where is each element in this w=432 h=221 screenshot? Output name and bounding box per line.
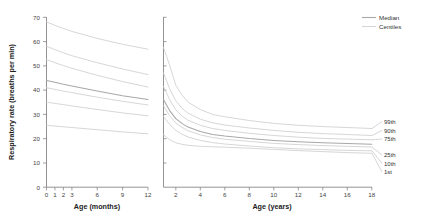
curve-25th [47,88,149,105]
y-tick-label: 40 [33,86,40,93]
legend-item-median: Median [362,14,400,21]
curve-25th [164,106,372,147]
child-x-axis-title: Age (years) [252,202,292,211]
x-tick: 8 [248,187,252,197]
x-tick: 2 [62,187,66,197]
x-tick-label: 6 [223,191,227,198]
x-tick: 14 [319,187,326,197]
y-tick-20: 20 [33,135,46,142]
child-x-axis: 2 4 6 8 10 [164,187,376,211]
y-axis-title: Respiratory rate (breaths per min) [7,43,16,159]
x-tick-label: 4 [199,191,203,198]
curve-90th [164,73,372,136]
child-panel: 2 4 6 8 10 [164,17,376,211]
x-tick-label: 18 [368,191,375,198]
curve-75th [47,60,149,88]
x-tick-label: 1 [53,191,57,198]
x-tick-label: 14 [319,191,326,198]
annotation-25th: 25th [372,147,396,158]
x-tick-label: 8 [248,191,252,198]
respiratory-rate-centile-chart: 70 60 50 40 30 20 [0,0,432,221]
y-tick-label: 10 [33,159,40,166]
curve-99th [47,22,149,49]
y-tick-60: 60 [33,38,46,45]
infant-panel: 0 1 2 3 6 [45,22,152,211]
x-tick: 0 [45,187,49,197]
centile-annotations: 99th 90th 75th 25th 10th 1st [372,119,396,176]
annotation-75th: 75th [372,136,396,142]
chart-canvas: 70 60 50 40 30 20 [0,0,432,221]
x-tick-label: 3 [70,191,74,198]
y-tick-50: 50 [33,62,46,69]
y-tick-label: 0 [37,184,41,191]
x-tick-label: 2 [62,191,66,198]
x-tick: 18 [368,187,375,197]
x-tick: 3 [70,187,74,197]
y-axis: 70 60 50 40 30 20 [7,14,47,191]
x-tick: 6 [223,187,227,197]
child-curves [164,48,372,154]
legend-item-centiles: Centiles [362,23,401,30]
y-tick-0: 0 [37,184,47,191]
annotation-label: 99th [384,119,396,125]
x-tick-label: 6 [95,191,99,198]
x-tick-label: 9 [121,191,125,198]
curve-75th [164,86,372,139]
infant-x-axis-title: Age (months) [74,202,121,211]
annotation-label: 75th [384,136,396,142]
curve-median [47,80,149,99]
x-tick: 12 [145,187,152,197]
x-tick-label: 12 [295,191,302,198]
annotation-label: 25th [384,152,396,158]
infant-x-axis: 0 1 2 3 6 [45,187,152,211]
y-tick-40: 40 [33,86,46,93]
x-tick: 9 [121,187,125,197]
legend-label: Median [379,14,400,21]
annotation-label: 90th [384,128,396,134]
annotation-label: 10th [384,161,396,167]
y-tick-label: 60 [33,38,40,45]
y-tick-30: 30 [33,111,46,118]
y-tick-70: 70 [33,14,46,21]
curve-90th [47,46,149,74]
x-tick-label: 16 [344,191,351,198]
curve-1st [47,125,149,134]
chart-legend: Median Centiles [362,14,401,30]
y-tick-label: 30 [33,111,40,118]
y-tick-label: 50 [33,62,40,69]
x-tick: 6 [95,187,99,197]
x-tick: 12 [295,187,302,197]
y-tick-label: 70 [33,14,40,21]
curve-10th [47,102,149,116]
legend-label: Centiles [379,23,401,30]
x-tick: 1 [53,187,57,197]
infant-curves [47,22,149,134]
x-tick: 16 [344,187,351,197]
y-tick-10: 10 [33,159,46,166]
annotation-90th: 90th [372,128,396,136]
x-tick-label: 2 [174,191,178,198]
x-tick: 4 [199,187,203,197]
y-tick-label: 20 [33,135,40,142]
x-tick-label: 12 [145,191,152,198]
x-tick-label: 0 [45,191,49,198]
x-tick: 2 [174,187,178,197]
x-tick-label: 10 [270,191,277,198]
annotation-label: 1st [384,169,392,175]
x-tick: 10 [270,187,277,197]
